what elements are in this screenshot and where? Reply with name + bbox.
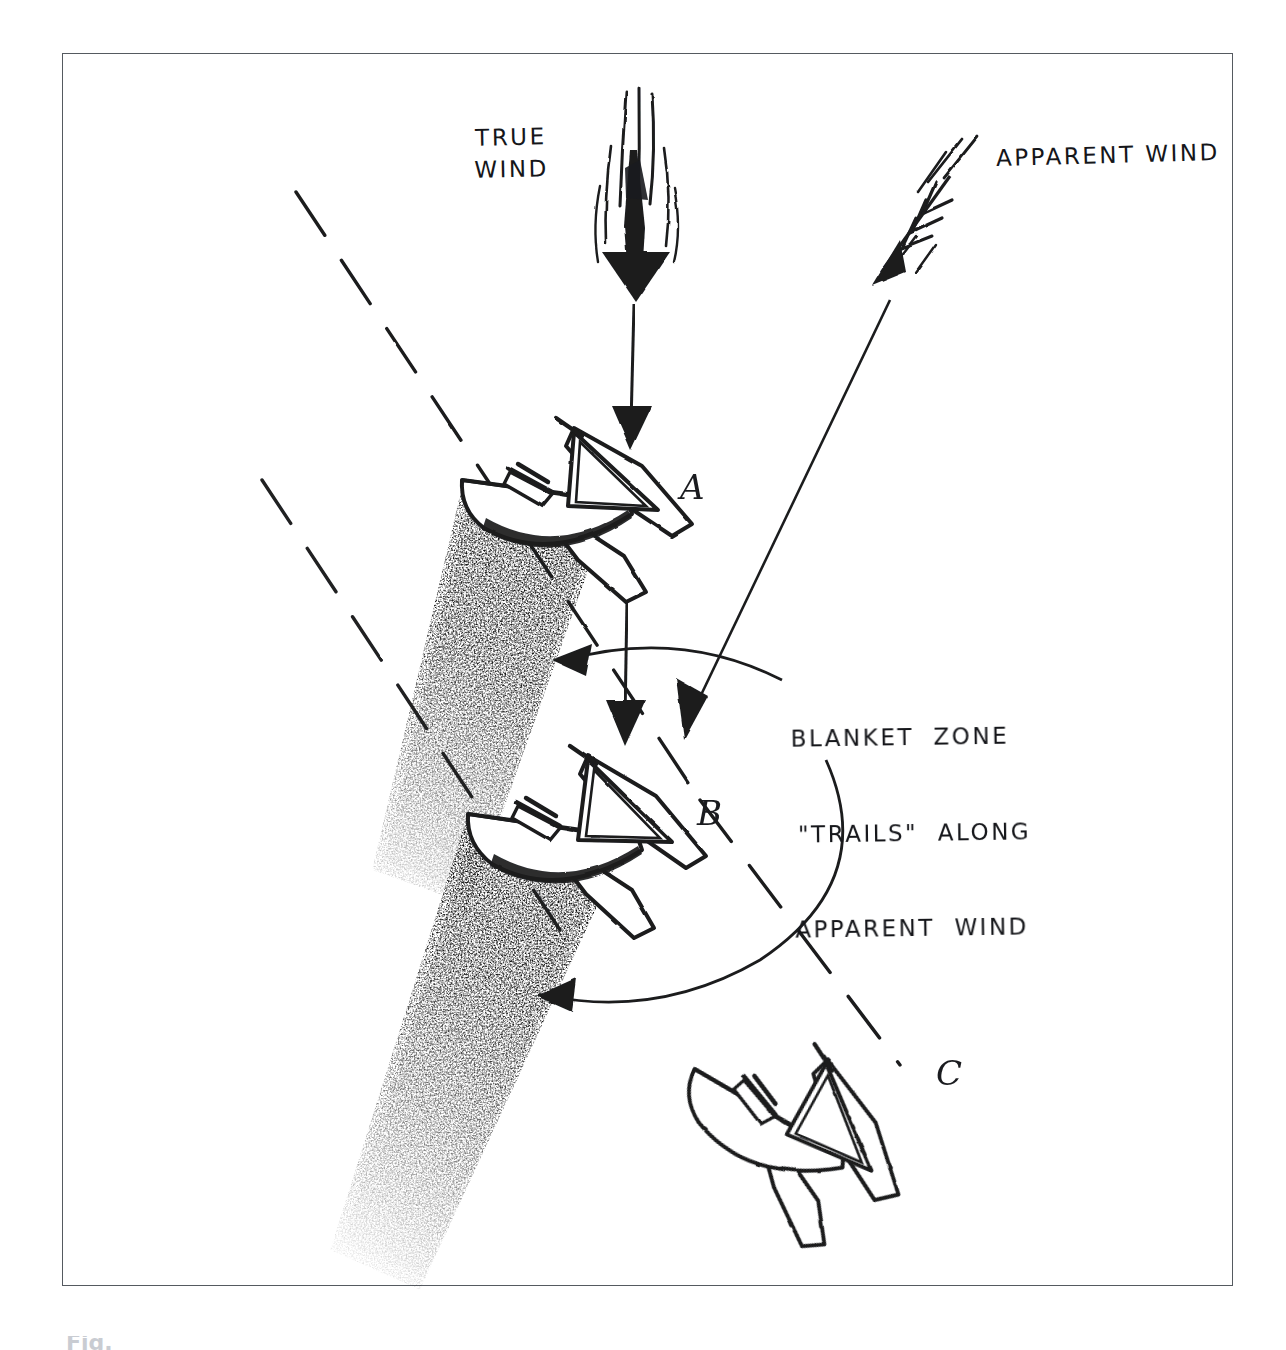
blanket-zone-boat-b — [330, 820, 625, 1290]
apparent-wind-label: APPARENT WIND — [996, 137, 1221, 175]
apparent-wind-arrow — [676, 137, 977, 740]
boat-label-b: B — [697, 793, 722, 833]
boat-label-a: A — [680, 467, 705, 507]
boat-c — [648, 1006, 939, 1272]
figure-caption-text: Fig. — [66, 1336, 366, 1350]
figure-page: TRUE WIND APPARENT WIND BLANKET ZONE "TR… — [0, 0, 1286, 1350]
true-wind-label: TRUE WIND — [473, 121, 549, 186]
leader-line-top — [551, 644, 782, 680]
figure-caption-clipped: Fig. — [66, 1336, 366, 1350]
diagram-artwork — [0, 0, 1286, 1350]
blanket-zone-annotation: BLANKET ZONE "TRAILS" ALONG APPARENT WIN… — [790, 657, 1034, 1009]
boat-label-c: C — [936, 1053, 962, 1093]
blanket-annotation-line-3: APPARENT WIND — [793, 911, 1033, 946]
blanket-annotation-line-2: "TRAILS" ALONG — [792, 816, 1032, 851]
blanket-annotation-line-1: BLANKET ZONE — [790, 721, 1030, 756]
